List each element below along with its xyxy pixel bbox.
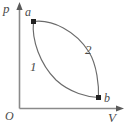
- process-curve-1-label: 1: [30, 60, 37, 73]
- process-curve-2: [34, 21, 99, 97]
- state-point-b-label: b: [104, 92, 110, 104]
- process-curve-1: [33, 22, 98, 98]
- state-point-b-marker: [96, 95, 101, 100]
- state-point-a-label: a: [25, 6, 31, 18]
- process-curve-2-label: 2: [85, 43, 92, 56]
- volume-axis-arrow-icon: [116, 105, 124, 111]
- pv-diagram-figure: p V O a b 1 2: [0, 0, 127, 129]
- pressure-axis-arrow-icon: [16, 2, 22, 10]
- volume-axis-label: V: [108, 111, 116, 124]
- origin-label: O: [5, 110, 14, 122]
- pressure-axis-label: p: [3, 2, 10, 15]
- state-point-a-marker: [31, 19, 36, 24]
- pressure-axis: [16, 2, 22, 109]
